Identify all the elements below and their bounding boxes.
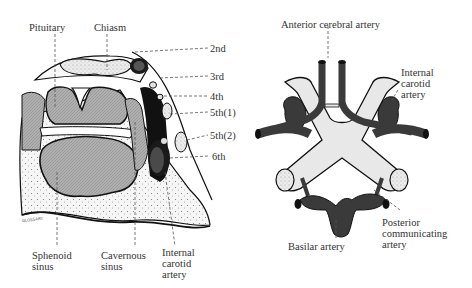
label-3rd-nerve: 3rd xyxy=(210,71,224,82)
label-left-ica-line2: carotid xyxy=(162,258,191,269)
label-4th-nerve: 4th xyxy=(210,91,223,102)
left-cross-section: GLOSSARY xyxy=(20,34,212,246)
label-left-ica-line1: Internal xyxy=(162,247,195,258)
label-5th-2-nerve: 5th(2) xyxy=(210,130,236,141)
anatomy-figure: GLOSSARY xyxy=(0,0,472,288)
label-right-ica-line2: carotid xyxy=(401,78,430,89)
label-6th-nerve: 6th xyxy=(212,151,225,162)
label-chiasm: Chiasm xyxy=(94,22,126,33)
label-pituitary: Pituitary xyxy=(29,22,65,33)
label-2nd-nerve: 2nd xyxy=(210,43,226,54)
svg-text:GLOSSARY: GLOSSARY xyxy=(22,216,44,223)
label-right-ica-line1: Internal xyxy=(401,67,434,78)
label-sphenoid-sinus-line2: sinus xyxy=(32,261,54,272)
label-pcom-line3: artery xyxy=(382,239,406,250)
label-right-ica-line3: artery xyxy=(401,89,425,100)
label-pcom-line1: Posterior xyxy=(382,217,420,228)
label-anterior-cerebral-artery: Anterior cerebral artery xyxy=(281,19,380,30)
label-sphenoid-sinus-line1: Sphenoid xyxy=(32,250,72,261)
label-5th-1-nerve: 5th(1) xyxy=(210,107,236,118)
right-circle-of-willis xyxy=(255,26,429,238)
label-cavernous-sinus-line2: sinus xyxy=(101,261,123,272)
label-basilar-artery: Basilar artery xyxy=(288,241,345,252)
label-pcom-line2: communicating xyxy=(382,228,447,239)
label-cavernous-sinus-line1: Cavernous xyxy=(101,250,146,261)
label-left-ica-line3: artery xyxy=(162,269,186,280)
